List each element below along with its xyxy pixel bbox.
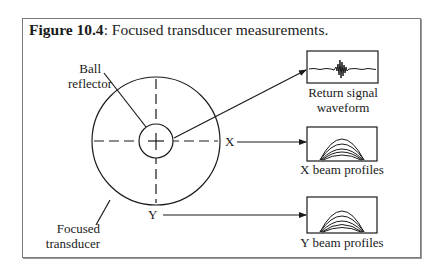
focused-transducer-label: Focused transducer (30, 221, 100, 251)
return-signal-label: Return signal waveform (297, 85, 389, 115)
return-signal-arrow (174, 70, 306, 138)
focused-label-line1: Focused (30, 221, 100, 236)
focused-label-line2: transducer (30, 236, 100, 251)
y-beam-profiles-label: Y beam profiles (291, 235, 393, 250)
y-beam-profile-curves (320, 211, 364, 232)
ball-label-line2: reflector (52, 76, 112, 91)
return-label-line1: Return signal (297, 85, 389, 100)
waveform-trace (309, 60, 376, 78)
y-axis-label: Y (148, 207, 157, 222)
x-beam-profiles-label: X beam profiles (291, 162, 393, 177)
return-label-line2: waveform (297, 100, 389, 115)
ball-label-line1: Ball (52, 61, 112, 76)
x-axis-label: X (225, 134, 234, 149)
ball-reflector-label: Ball reflector (52, 61, 112, 91)
x-beam-profile-curves (320, 139, 364, 160)
